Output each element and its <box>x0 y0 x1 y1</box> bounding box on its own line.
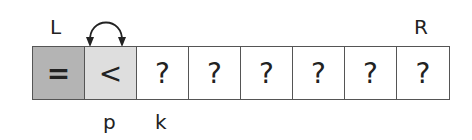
pointer-label-R: R <box>414 17 428 37</box>
pointer-label-k: k <box>155 112 167 132</box>
array-cell-4: ? <box>241 47 293 99</box>
array-cell-0: = <box>33 47 85 99</box>
array-cell-5: ? <box>293 47 345 99</box>
array-cell-2: ? <box>137 47 189 99</box>
array-cell-3: ? <box>189 47 241 99</box>
array-cell-6: ? <box>345 47 397 99</box>
swap-arrow-icon <box>84 4 132 48</box>
array-row: = < ? ? ? ? ? ? <box>32 46 450 100</box>
array-cell-7: ? <box>397 47 449 99</box>
array-cell-1: < <box>85 47 137 99</box>
pointer-label-p: p <box>103 112 116 132</box>
pointer-label-L: L <box>50 17 61 37</box>
